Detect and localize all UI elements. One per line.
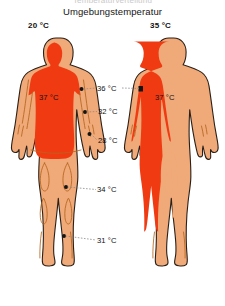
right-contour-shin-left: [153, 232, 155, 258]
left-contour-shin-left: [40, 232, 42, 258]
callout-32c: 32 °C: [98, 107, 118, 116]
body-left-20c: [11, 38, 105, 266]
left-dot-31c: [62, 234, 66, 238]
left-dot-28c: [88, 132, 92, 136]
body-right-35c: [124, 38, 218, 266]
callout-36c: 36 °C: [97, 84, 117, 93]
callout-34c: 34 °C: [97, 185, 117, 194]
core-label-left: 37 °C: [39, 93, 59, 102]
left-dot-32c: [83, 110, 87, 114]
body-diagram-svg: [0, 0, 225, 306]
temperature-distribution-figure: Temperaturverteilung Umgebungstemperatur…: [0, 0, 225, 306]
right-dot-36c: [139, 86, 144, 92]
left-dot-34c: [64, 185, 68, 189]
right-body-silhouette: [124, 38, 218, 266]
left-dot-36c: [80, 87, 84, 91]
callout-31c: 31 °C: [97, 236, 117, 245]
callout-28c: 28 °C: [98, 136, 118, 145]
core-label-right: 37 °C: [155, 93, 175, 102]
